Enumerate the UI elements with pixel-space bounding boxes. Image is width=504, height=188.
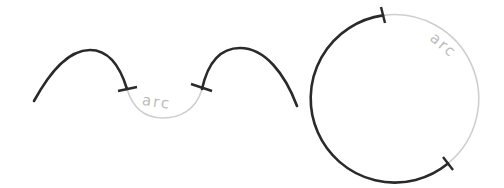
wave-arc-label: arc [141,91,173,113]
circle-arc-end-tick [443,157,453,170]
circle-figure: arc [311,7,479,183]
left-hump-curve [34,50,127,101]
arc-diagram: arc arc [0,0,504,188]
wave-figure: arc [34,48,297,118]
circle-arc-label: arc [426,29,460,62]
right-hump-curve [202,48,297,106]
